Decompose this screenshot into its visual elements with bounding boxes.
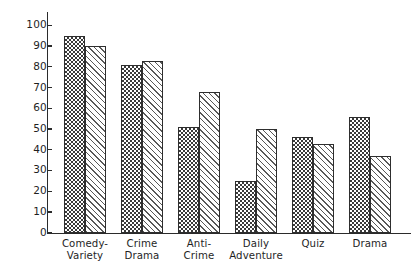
bar [256,129,277,233]
y-axis-tick [47,66,52,67]
x-axis-category-label-line: Adventure [208,250,304,262]
bar [142,61,163,233]
bar-chart: 0102030405060708090100 Comedy-VarietyCri… [0,0,419,265]
bar-group [349,23,391,233]
x-axis-category-label-line: Drama [322,238,418,250]
bar-group [64,23,106,233]
y-axis-tick-label: 50 [7,123,47,134]
y-axis-tick-label: 70 [7,82,47,93]
x-axis-category-label: Drama [322,238,418,250]
bar [235,181,256,233]
bar [349,117,370,233]
y-axis-tick [47,170,52,171]
bar-group [178,23,220,233]
y-axis-tick-label: 100 [7,19,47,30]
y-axis-tick-label: 10 [7,206,47,217]
y-axis-tick [47,191,52,192]
bar-group [292,23,334,233]
y-axis-tick-label: 40 [7,144,47,155]
y-axis-tick [47,211,52,212]
y-axis-tick [47,232,52,233]
bar [199,92,220,233]
bar [370,156,391,233]
y-axis-tick-label: 0 [7,227,47,238]
bar-group [235,23,277,233]
y-axis-tick [47,45,52,46]
y-axis-tick-label: 20 [7,185,47,196]
y-axis-tick [47,149,52,150]
bar [85,46,106,233]
y-axis-tick-label: 90 [7,40,47,51]
bar-group [121,23,163,233]
y-axis-tick-label: 30 [7,164,47,175]
bar [178,127,199,233]
bar [292,137,313,232]
y-axis-tick [47,87,52,88]
y-axis-tick [47,25,52,26]
y-axis-tick [47,108,52,109]
x-axis-line [47,233,411,234]
y-axis-tick-label: 60 [7,102,47,113]
bar [121,65,142,233]
bar [64,36,85,233]
bar [313,144,334,233]
y-axis-tick [47,128,52,129]
y-axis-tick-label: 80 [7,61,47,72]
